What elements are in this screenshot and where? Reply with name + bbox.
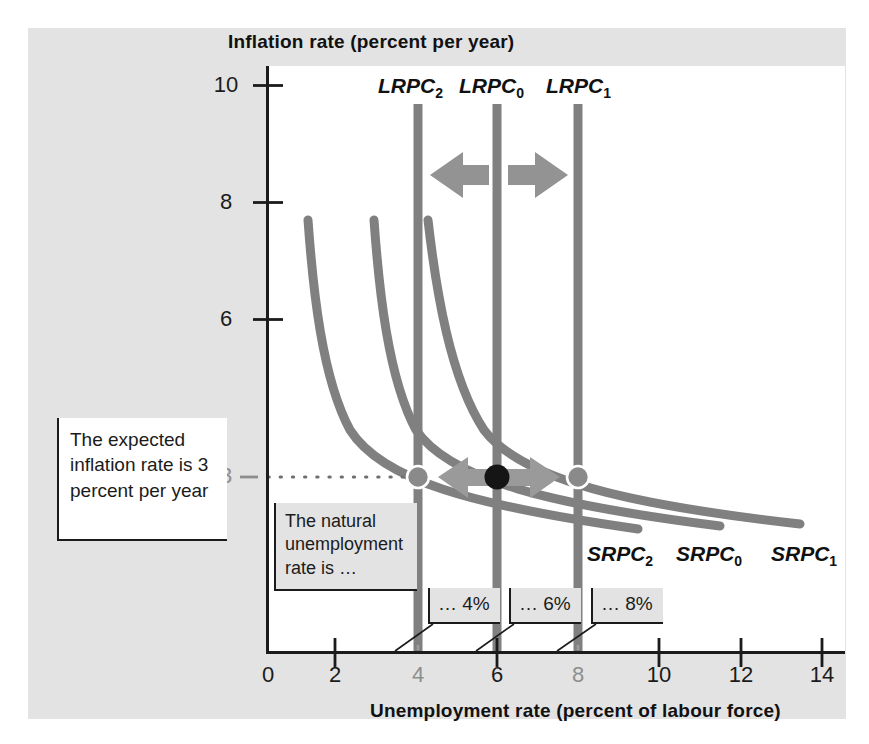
y-tick-label-10: 10: [206, 72, 246, 98]
srpc0-label-sub: 0: [734, 553, 742, 569]
srpc2-label: SRPC2: [587, 542, 653, 569]
marker-centre-point: [485, 465, 510, 490]
lrpc0-label: LRPC0: [459, 74, 524, 101]
lrpc1-label-sub: 1: [603, 85, 611, 101]
y-tick-marks: [240, 86, 283, 478]
y-tick-label-6: 6: [206, 306, 246, 332]
x-tick-label-8: 8: [558, 662, 598, 688]
top-arrow-right-icon: [508, 152, 568, 198]
lrpc2-label-base: LRPC: [378, 74, 435, 97]
lrpc0-label-sub: 0: [516, 85, 524, 101]
marker-left-point: [407, 466, 429, 488]
lrpc-lines: [418, 104, 578, 652]
y-axis-title: Inflation rate (percent per year): [228, 31, 514, 53]
natural-rate-6-callout: … 6%: [509, 588, 581, 624]
natural-rate-callout: The natural unemployment rate is …: [274, 503, 417, 591]
chart-canvas: [0, 0, 869, 744]
x-tick-label-0: 0: [248, 662, 288, 688]
x-axis-title: Unemployment rate (percent of labour for…: [370, 700, 781, 722]
lrpc2-label-sub: 2: [435, 85, 443, 101]
marker-right-point: [567, 466, 589, 488]
natural-rate-4-callout: … 4%: [428, 588, 500, 624]
lrpc2-label: LRPC2: [378, 74, 443, 101]
srpc2-label-sub: 2: [645, 553, 653, 569]
lrpc0-label-base: LRPC: [459, 74, 516, 97]
srpc2-label-base: SRPC: [587, 542, 645, 565]
x-tick-label-4: 4: [398, 662, 438, 688]
srpc0-label-base: SRPC: [676, 542, 734, 565]
srpc1-label-base: SRPC: [771, 542, 829, 565]
x-tick-label-6: 6: [477, 662, 517, 688]
expected-inflation-callout: The expected inflation rate is 3 percent…: [57, 418, 227, 541]
lrpc1-label-base: LRPC: [546, 74, 603, 97]
lrpc1-label: LRPC1: [546, 74, 611, 101]
x-tick-label-14: 14: [802, 662, 842, 688]
y-tick-label-8: 8: [206, 189, 246, 215]
top-arrow-left-icon: [430, 152, 489, 198]
srpc1-label-sub: 1: [829, 553, 837, 569]
x-tick-label-2: 2: [315, 662, 355, 688]
natural-rate-8-callout: … 8%: [591, 588, 663, 624]
srpc-curves: [308, 220, 800, 529]
x-tick-label-10: 10: [639, 662, 679, 688]
srpc1-label: SRPC1: [771, 542, 837, 569]
phillips-curve-figure: Inflation rate (percent per year) Unempl…: [0, 0, 869, 744]
x-tick-label-12: 12: [721, 662, 761, 688]
srpc0-label: SRPC0: [676, 542, 742, 569]
